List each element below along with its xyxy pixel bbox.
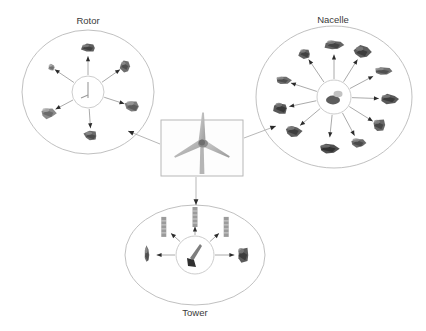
arrowhead-nacelle-main-shaft	[374, 96, 379, 100]
arrowhead-nacelle-bearing-housing	[309, 59, 314, 64]
arrowhead-tower-tower-flange	[157, 253, 162, 257]
part-main-shaft[interactable]	[381, 94, 399, 105]
arrowhead-nacelle-coupling	[291, 83, 296, 87]
group-label-nacelle: Nacelle	[317, 14, 349, 25]
group-label-rotor: Rotor	[76, 15, 99, 26]
part-bearing-housing[interactable]	[298, 49, 310, 59]
connector-center-to-nacelle-arrowhead	[270, 126, 276, 131]
part-generator[interactable]	[354, 45, 372, 58]
connector-center-to-tower-arrowhead	[194, 199, 199, 205]
part-control-cabinet[interactable]	[351, 138, 366, 148]
part-coupling[interactable]	[277, 77, 292, 84]
part-tower-section-upper[interactable]	[193, 207, 198, 227]
arrowhead-nacelle-brake-caliper	[289, 103, 294, 107]
part-pitch-bearing[interactable]	[120, 61, 130, 73]
part-transformer-unit[interactable]	[286, 126, 303, 137]
part-blade-tip[interactable]	[41, 108, 56, 119]
part-hub-casting[interactable]	[125, 101, 139, 111]
connector-center-to-rotor-arrowhead	[128, 131, 134, 135]
part-tower-flange[interactable]	[145, 245, 150, 262]
arrowhead-rotor-pitch-bearing	[115, 69, 120, 74]
arrowhead-tower-tower-door-assembly	[229, 253, 234, 257]
arrowhead-rotor-spinner-nose-cone	[88, 123, 92, 128]
center-turbine-node[interactable]	[161, 112, 243, 176]
arrowhead-rotor-hub-casting	[119, 100, 124, 104]
arrowhead-rotor-pitch-actuator	[55, 70, 60, 75]
arrowhead-rotor-blade-root-section	[86, 56, 90, 61]
part-gearbox[interactable]	[325, 40, 345, 49]
wind-turbine-breakdown-diagram: RotorNacelleTower	[0, 0, 426, 331]
arrowhead-tower-tower-section-upper	[193, 227, 197, 232]
arrowhead-nacelle-gearbox	[332, 55, 336, 60]
part-heat-exchanger[interactable]	[375, 67, 392, 75]
part-tower-section-middle[interactable]	[224, 217, 229, 237]
part-tower-section-lower[interactable]	[161, 217, 166, 237]
part-spinner-nose-cone[interactable]	[83, 131, 96, 141]
group-cluster-nacelle	[256, 26, 412, 168]
turbine-hub	[199, 139, 205, 145]
group-label-tower: Tower	[182, 307, 207, 318]
part-blade-root-section[interactable]	[81, 44, 95, 52]
arrowhead-nacelle-nacelle-bedplate	[328, 132, 332, 137]
part-nacelle-bedplate[interactable]	[320, 144, 339, 154]
arrowhead-nacelle-yaw-drive	[368, 117, 373, 121]
arrowhead-nacelle-generator	[353, 59, 357, 64]
group-cluster-rotor	[22, 30, 154, 154]
part-tower-door-assembly[interactable]	[238, 248, 248, 263]
part-yaw-drive[interactable]	[373, 120, 385, 131]
group-cluster-tower	[125, 205, 265, 305]
part-brake-caliper[interactable]	[273, 103, 287, 114]
diagram-canvas: RotorNacelleTower	[0, 0, 426, 331]
part-pitch-actuator[interactable]	[48, 64, 54, 71]
